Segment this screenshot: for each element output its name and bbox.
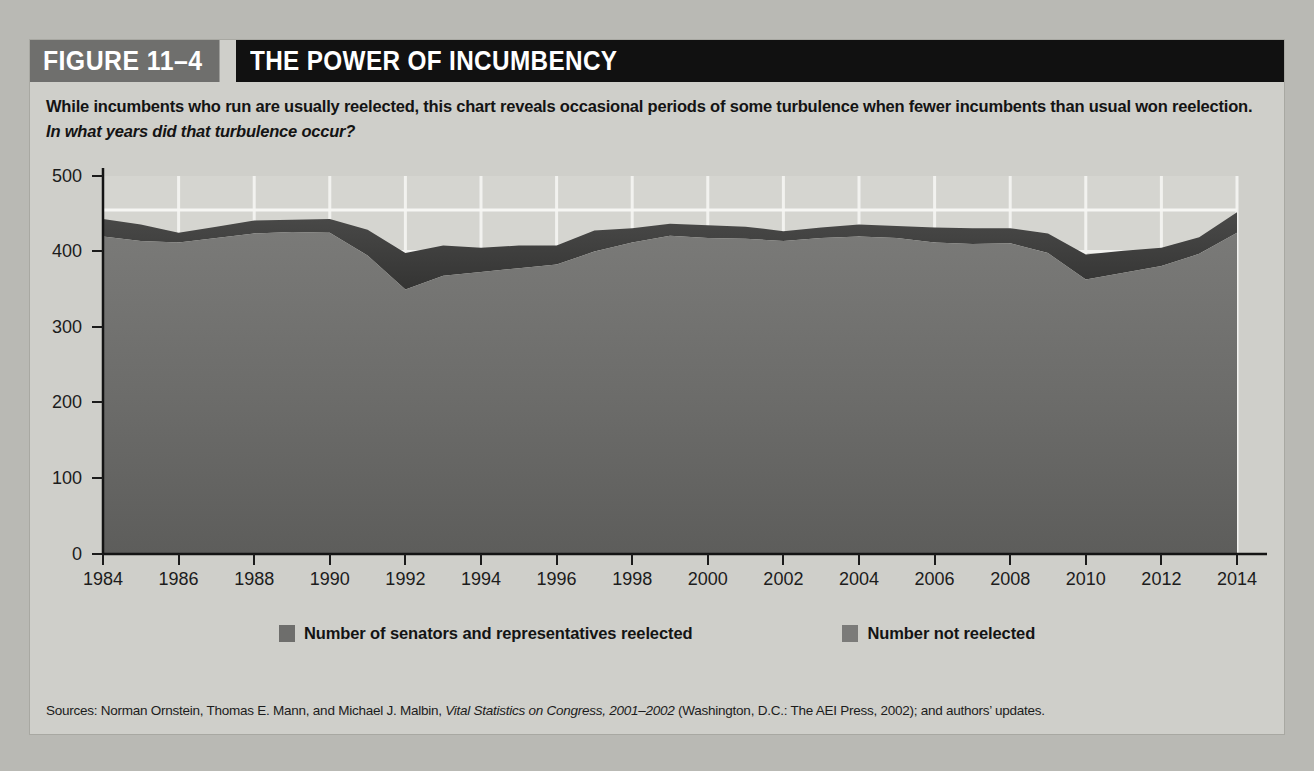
subtitle-question: In what years did that turbulence occur? — [46, 122, 355, 140]
x-axis-tick-mark — [707, 554, 709, 565]
subtitle-statement: While incumbents who run are usually ree… — [46, 97, 1252, 115]
area-chart — [30, 156, 1284, 616]
legend-label: Number not reelected — [867, 624, 1035, 643]
x-axis-tick-label: 1994 — [461, 569, 501, 590]
x-axis-tick-mark — [934, 554, 936, 565]
y-axis-tick-mark — [92, 326, 103, 328]
figure-subtitle: While incumbents who run are usually ree… — [30, 82, 1284, 150]
x-axis-tick-label: 1988 — [234, 569, 274, 590]
x-axis-tick-label: 1990 — [310, 569, 350, 590]
y-axis-tick-label: 100 — [38, 467, 82, 488]
x-axis-tick-label: 2000 — [688, 569, 728, 590]
y-axis-tick-mark — [92, 401, 103, 403]
y-axis-tick-mark — [92, 250, 103, 252]
x-axis-tick-mark — [480, 554, 482, 565]
figure-header: FIGURE 11–4 THE POWER OF INCUMBENCY — [30, 40, 1284, 82]
y-axis-tick-label: 300 — [38, 316, 82, 337]
chart-legend: Number of senators and representatives r… — [30, 624, 1284, 643]
legend-item: Number of senators and representatives r… — [279, 624, 693, 643]
x-axis-tick-label: 1996 — [537, 569, 577, 590]
y-axis-tick-label: 500 — [38, 165, 82, 186]
area-reelected — [103, 231, 1237, 553]
source-suffix: (Washington, D.C.: The AEI Press, 2002);… — [675, 703, 1045, 718]
x-axis-tick-mark — [631, 554, 633, 565]
y-axis-tick-label: 0 — [38, 543, 82, 564]
x-axis-tick-mark — [102, 554, 104, 565]
x-axis-tick-label: 1984 — [83, 569, 123, 590]
source-title: Vital Statistics on Congress, 2001–2002 — [445, 703, 674, 718]
legend-label: Number of senators and representatives r… — [304, 624, 693, 643]
x-axis-tick-mark — [253, 554, 255, 565]
x-axis-tick-mark — [1236, 554, 1238, 565]
x-axis-tick-mark — [1009, 554, 1011, 565]
x-axis-tick-mark — [782, 554, 784, 565]
y-axis-tick-label: 400 — [38, 241, 82, 262]
x-axis-tick-mark — [858, 554, 860, 565]
legend-swatch-icon — [279, 625, 295, 642]
x-axis-tick-label: 2010 — [1066, 569, 1106, 590]
x-axis-tick-label: 2002 — [763, 569, 803, 590]
y-axis-tick-mark — [92, 175, 103, 177]
x-axis-tick-label: 2008 — [990, 569, 1030, 590]
figure-source: Sources: Norman Ornstein, Thomas E. Mann… — [46, 702, 1268, 720]
x-axis-tick-label: 1992 — [385, 569, 425, 590]
x-axis-tick-label: 2012 — [1141, 569, 1181, 590]
figure-number: FIGURE 11–4 — [30, 40, 219, 82]
x-axis-tick-mark — [556, 554, 558, 565]
x-axis-tick-mark — [1085, 554, 1087, 565]
y-axis-tick-label: 200 — [38, 392, 82, 413]
x-axis-tick-mark — [404, 554, 406, 565]
x-axis-tick-label: 2006 — [915, 569, 955, 590]
legend-item: Number not reelected — [842, 624, 1035, 643]
figure-panel: FIGURE 11–4 THE POWER OF INCUMBENCY Whil… — [30, 40, 1284, 734]
y-axis-tick-mark — [92, 477, 103, 479]
chart-plot-area: 0100200300400500198419861988199019921994… — [30, 156, 1284, 616]
x-axis-tick-mark — [1160, 554, 1162, 565]
figure-title: THE POWER OF INCUMBENCY — [236, 40, 1284, 82]
x-axis-tick-label: 2014 — [1217, 569, 1257, 590]
x-axis-tick-label: 2004 — [839, 569, 879, 590]
source-prefix: Sources: Norman Ornstein, Thomas E. Mann… — [46, 703, 445, 718]
figure-title-text: THE POWER OF INCUMBENCY — [250, 46, 617, 77]
x-axis-tick-mark — [329, 554, 331, 565]
x-axis-tick-mark — [178, 554, 180, 565]
legend-swatch-icon — [842, 625, 858, 642]
x-axis-tick-label: 1998 — [612, 569, 652, 590]
x-axis-tick-label: 1986 — [159, 569, 199, 590]
